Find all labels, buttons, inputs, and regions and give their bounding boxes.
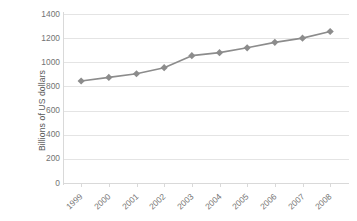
x-axis-tick-label: 2008 [308,191,334,216]
x-axis-tick [247,184,248,187]
y-axis-tick-label: 800 [34,82,60,91]
x-axis-tick-label: 2007 [280,191,306,216]
x-axis-tick-label: 2002 [142,191,168,216]
series-line [81,32,330,82]
data-point-marker [244,44,251,51]
data-point-marker [299,35,306,42]
x-axis-tick-label: 2004 [197,191,223,216]
data-point-marker [105,74,112,81]
gridline [64,183,349,184]
line-chart: Billions of US dollars 02004006008001000… [0,0,357,221]
x-axis-tick [192,184,193,187]
data-point-marker [188,52,195,59]
y-axis-tick-label: 0 [34,179,60,188]
x-axis-tick-label: 2000 [86,191,112,216]
x-axis-tick [164,184,165,187]
x-axis-tick-label: 2005 [225,191,251,216]
x-axis-tick [303,184,304,187]
data-point-marker [271,39,278,46]
data-point-marker [133,70,140,77]
x-axis-tick [137,184,138,187]
data-point-marker [161,64,168,71]
x-axis-tick-label: 2006 [252,191,278,216]
y-axis-tick-label: 1200 [34,34,60,43]
x-axis-tick [109,184,110,187]
data-series [64,14,349,183]
x-axis-tick [275,184,276,187]
y-axis-tick-label: 1400 [34,10,60,19]
x-axis-tick [220,184,221,187]
x-axis-tick-label: 1999 [59,191,85,216]
data-point-marker [216,49,223,56]
y-axis-tick-label: 1000 [34,58,60,67]
y-axis-tick-label: 400 [34,130,60,139]
y-axis-tick-label: 200 [34,154,60,163]
data-point-marker [327,28,334,35]
x-axis-tick [81,184,82,187]
data-point-marker [78,77,85,84]
x-axis-tick [330,184,331,187]
plot-area [64,14,349,183]
x-axis-tick-label: 2001 [114,191,140,216]
x-axis-tick-label: 2003 [169,191,195,216]
y-axis-tick-label: 600 [34,106,60,115]
y-axis-tick-labels: 0200400600800100012001400 [34,0,60,221]
